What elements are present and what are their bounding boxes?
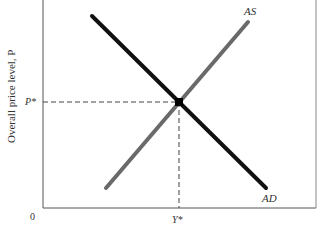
- as-label: AS: [243, 5, 257, 17]
- y-star-label: Y*: [172, 214, 183, 225]
- ad-label: AD: [261, 192, 277, 204]
- origin-label: 0: [30, 211, 35, 222]
- equilibrium-point: [175, 98, 183, 106]
- p-star-label: P*: [24, 96, 36, 107]
- as-ad-diagram: AS AD P* Y* 0 Overall price level, P: [0, 0, 321, 232]
- diagram-canvas: AS AD P* Y* 0 Overall price level, P: [0, 0, 321, 232]
- y-axis-label: Overall price level, P: [5, 50, 17, 143]
